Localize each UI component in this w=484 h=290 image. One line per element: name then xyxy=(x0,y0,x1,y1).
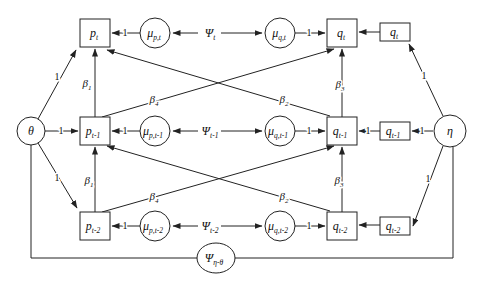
loading-1-mu-p-t1: 1 xyxy=(123,125,128,136)
psi-t1-label: Ψt-1 xyxy=(202,124,219,140)
beta1-top-label: β1 xyxy=(82,77,92,92)
beta3-top-label: β3 xyxy=(335,78,345,93)
loading-1-mu-q-t: 1 xyxy=(307,27,312,38)
loading-1-mu-q-t1: 1 xyxy=(307,125,312,136)
edge-theta-eta-covariance xyxy=(31,145,453,258)
edge-labels: 1 1 1 1 1 1 1 1 1 1 1 1 1 β1 β4 β2 β3 β1… xyxy=(55,27,431,231)
loading-1-q-t1-ind: 1 xyxy=(366,125,371,136)
edge-eta-to-q-t2-ind xyxy=(413,146,443,226)
node-labels: θ η pt pt-1 pt-2 μp,t μp,t-1 μp,t-2 Ψt Ψ… xyxy=(28,25,453,267)
loading-1-eta-q-t1: 1 xyxy=(420,125,425,136)
path-diagram-figure: θ η pt pt-1 pt-2 μp,t μp,t-1 μp,t-2 Ψt Ψ… xyxy=(0,0,484,290)
beta2-bottom-label: β2 xyxy=(279,190,289,205)
beta4-bottom-label: β4 xyxy=(149,190,159,205)
loading-1-theta-p-t: 1 xyxy=(55,71,60,82)
loading-1-theta-p-t2: 1 xyxy=(55,172,60,183)
path-diagram-svg: θ η pt pt-1 pt-2 μp,t μp,t-1 μp,t-2 Ψt Ψ… xyxy=(0,0,484,290)
loading-1-mu-p-t: 1 xyxy=(123,27,128,38)
psi-t-label: Ψt xyxy=(205,26,216,42)
loading-1-eta-q-t: 1 xyxy=(422,70,427,81)
beta2-top-label: β2 xyxy=(279,93,289,108)
loading-1-mu-p-t2: 1 xyxy=(123,220,128,231)
beta1-bottom-label: β1 xyxy=(84,174,94,189)
psi-t2-label: Ψt-2 xyxy=(202,219,219,235)
edge-theta-to-p-t xyxy=(38,50,76,119)
loading-1-mu-q-t2: 1 xyxy=(307,220,312,231)
theta-label: θ xyxy=(28,124,34,138)
eta-label: η xyxy=(447,124,453,138)
loading-1-theta-p-t1: 1 xyxy=(59,125,64,136)
beta4-top-label: β4 xyxy=(149,93,159,108)
loading-1-eta-q-t2: 1 xyxy=(426,173,431,184)
